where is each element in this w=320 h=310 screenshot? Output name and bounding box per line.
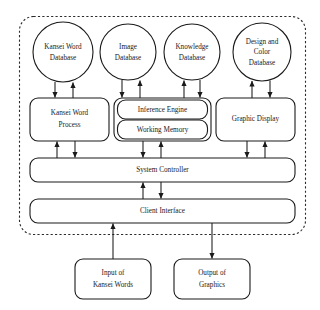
kansei-word-process-label-1: Kansei Word (51, 109, 89, 117)
node-system-controller[interactable]: System Controller (30, 158, 295, 182)
system-controller-label: System Controller (136, 166, 189, 174)
node-design-color-database[interactable]: Design and Color Database (233, 23, 291, 81)
diagram-canvas: Kansei Word Database Image Database Know… (0, 0, 320, 310)
node-graphic-display[interactable]: Graphic Display (216, 98, 295, 141)
node-input-of-kansei-words[interactable]: Input of Kansei Words (75, 259, 151, 299)
node-kansei-word-database[interactable]: Kansei Word Database (33, 22, 93, 82)
output-of-graphics-label-2: Graphics (199, 281, 225, 289)
node-inference-engine[interactable]: Inference Engine (118, 100, 208, 119)
knowledge-database-label-1: Knowledge (175, 43, 208, 51)
kansei-word-process-label-2: Process (59, 121, 81, 129)
client-interface-label: Client Interface (140, 207, 185, 215)
node-client-interface[interactable]: Client Interface (30, 199, 295, 223)
design-color-database-label-3: Database (249, 59, 275, 67)
node-working-memory[interactable]: Working Memory (118, 120, 208, 139)
image-database-label-2: Database (115, 54, 141, 62)
design-color-database-label-2: Color (254, 48, 271, 56)
node-output-of-graphics[interactable]: Output of Graphics (174, 259, 250, 299)
design-color-database-label-1: Design and (246, 38, 279, 46)
node-image-database[interactable]: Image Database (100, 24, 156, 80)
node-kansei-word-process[interactable]: Kansei Word Process (30, 98, 109, 141)
output-of-graphics-label-1: Output of (198, 269, 226, 277)
working-memory-label: Working Memory (137, 126, 189, 134)
graphic-display-label: Graphic Display (232, 115, 280, 123)
input-of-kansei-words-label-1: Input of (102, 269, 126, 277)
kansei-word-database-label-1: Kansei Word (44, 43, 82, 51)
input-of-kansei-words-label-2: Kansei Words (93, 281, 133, 289)
kansei-word-database-label-2: Database (50, 54, 76, 62)
knowledge-database-label-2: Database (179, 54, 205, 62)
inference-engine-label: Inference Engine (138, 106, 187, 114)
image-database-label-1: Image (119, 43, 137, 51)
node-knowledge-database[interactable]: Knowledge Database (164, 24, 220, 80)
